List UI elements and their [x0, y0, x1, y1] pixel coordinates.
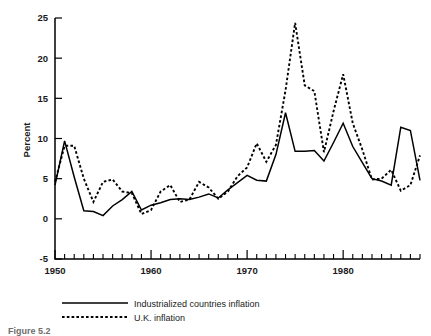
chart-legend: Industrialized countries inflationU.K. i… [62, 299, 260, 323]
y-axis-title: Percent [21, 122, 32, 158]
y-tick-label: 5 [43, 173, 49, 184]
series-line-industrialized [55, 113, 420, 216]
x-tick-label: 1950 [44, 265, 65, 276]
axis-spines [55, 18, 420, 259]
x-tick-label: 1980 [333, 265, 354, 276]
figure-container: -50510152025 1950196019701980 Percent In… [0, 0, 431, 336]
legend-label: Industrialized countries inflation [134, 299, 260, 309]
figure-caption: Figure 5.2 [8, 326, 51, 336]
x-tick-label: 1970 [237, 265, 258, 276]
y-tick-label: 0 [43, 213, 48, 224]
y-axis-tick-labels: -50510152025 [37, 12, 48, 264]
series-layer [55, 23, 420, 216]
series-line-uk [55, 23, 420, 214]
y-tick-label: -5 [40, 253, 49, 264]
inflation-line-chart: -50510152025 1950196019701980 Percent In… [0, 0, 431, 336]
y-axis-ticks [55, 18, 62, 259]
x-tick-label: 1960 [140, 265, 161, 276]
y-tick-label: 20 [37, 53, 48, 64]
x-axis-tick-labels: 1950196019701980 [44, 265, 353, 276]
y-tick-label: 15 [37, 93, 48, 104]
y-tick-label: 10 [37, 133, 48, 144]
legend-label: U.K. inflation [134, 313, 185, 323]
y-tick-label: 25 [37, 12, 48, 23]
